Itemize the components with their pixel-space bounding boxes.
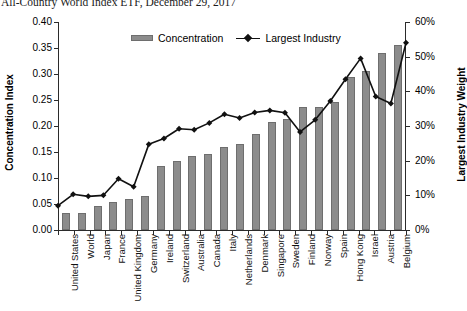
y-axis-left-title: Concentration Index <box>4 63 15 183</box>
y-axis-left-tick-label: 0.30 <box>33 69 52 79</box>
x-axis-category-label: Denmark <box>260 234 270 273</box>
x-axis-category-label: Spain <box>339 234 349 258</box>
x-axis-category-label: Belgium <box>402 234 412 268</box>
plot-area: 0.000.050.100.150.200.250.300.350.40 0%1… <box>58 22 406 231</box>
line-marker <box>237 115 243 121</box>
line-series-largest-industry <box>58 22 406 231</box>
y-axis-right-tick-label: 0% <box>415 225 429 235</box>
x-axis-category-label: Japan <box>102 234 112 260</box>
x-axis-category-label: Australia <box>196 234 206 271</box>
x-axis-category-label: Ireland <box>165 234 175 263</box>
legend-item-concentration: Concentration <box>131 32 223 44</box>
y-axis-left-tick-label: 0.00 <box>33 225 52 235</box>
legend-label-largest-industry: Largest Industry <box>265 32 340 44</box>
line-marker <box>146 141 152 147</box>
y-axis-right-tick-label: 50% <box>415 52 435 62</box>
x-axis-category-label: France <box>117 234 127 264</box>
y-axis-left-tick-label: 0.05 <box>33 199 52 209</box>
line-marker <box>191 127 197 133</box>
x-axis-category-label: Norway <box>323 234 333 266</box>
line-diamond-swatch-icon <box>236 34 260 43</box>
x-axis-category-label: Singapore <box>276 234 286 277</box>
line-marker <box>252 109 258 115</box>
y-axis-right-tick-label: 20% <box>415 156 435 166</box>
x-axis-category-labels: United StatesWorldJapanFranceUnited King… <box>58 234 406 311</box>
y-axis-right-tick-label: 60% <box>415 17 435 27</box>
x-axis-category-label: Germany <box>149 234 159 273</box>
x-axis-category-label: Israel <box>370 234 380 257</box>
x-axis-category-label: United Kingdom <box>133 234 143 302</box>
line-marker <box>373 94 379 100</box>
x-axis-category-label: United States <box>70 234 80 291</box>
x-axis-category-label: Finland <box>307 234 317 265</box>
y-axis-right-tick-label: 40% <box>415 86 435 96</box>
x-axis-category-label: Netherlands <box>244 234 254 285</box>
x-axis-category-label: Sweden <box>291 234 301 268</box>
legend-label-concentration: Concentration <box>158 32 223 44</box>
x-axis-category-label: Canada <box>212 234 222 267</box>
y-axis-left-tick-label: 0.40 <box>33 17 52 27</box>
chart-title: All-Country World Index ETF, December 29… <box>1 0 236 9</box>
x-axis-category-label: Italy <box>228 234 238 251</box>
x-axis-category-label: Switzerland <box>181 234 191 283</box>
line-path <box>58 43 406 206</box>
line-marker <box>403 40 409 46</box>
line-marker <box>388 100 394 106</box>
y-axis-left-tick-label: 0.35 <box>33 43 52 53</box>
y-axis-left-tick-label: 0.10 <box>33 173 52 183</box>
y-axis-right-tick-label: 10% <box>415 190 435 200</box>
line-marker <box>85 193 91 199</box>
bar-swatch-icon <box>131 35 153 41</box>
y-axis-left-tick-label: 0.20 <box>33 121 52 131</box>
x-axis-category-label: Hong Kong <box>355 234 365 282</box>
y-axis-left-tick-label: 0.25 <box>33 95 52 105</box>
y-axis-left-tick-label: 0.15 <box>33 147 52 157</box>
x-axis-category-label: Austria <box>386 234 396 264</box>
y-axis-right-title: Largest Industry Weight <box>456 50 467 200</box>
line-marker <box>267 107 273 113</box>
legend-item-largest-industry: Largest Industry <box>236 32 340 44</box>
x-axis-category-label: World <box>86 234 96 259</box>
y-axis-right-tick-label: 30% <box>415 121 435 131</box>
chart-legend: Concentration Largest Industry <box>131 32 341 44</box>
line-marker <box>131 184 137 190</box>
